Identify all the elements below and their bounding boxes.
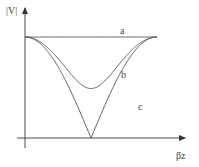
y-axis-label: |V|: [6, 5, 17, 16]
series-c-line: [25, 37, 157, 138]
curve-a-label: a: [120, 25, 125, 36]
series-b-line: [25, 37, 157, 89]
x-axis-label: βz: [176, 150, 186, 161]
standing-wave-chart: |V| βz a b c: [0, 0, 199, 167]
curve-b-label: b: [121, 69, 126, 80]
curve-c-label: c: [138, 101, 143, 112]
series-layer: [25, 37, 157, 138]
